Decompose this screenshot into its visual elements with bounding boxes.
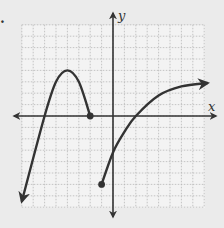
coordinate-plane: x y xyxy=(0,0,224,228)
graph-figure: . x y xyxy=(0,0,224,228)
y-axis-label: y xyxy=(117,8,126,23)
closed-dot-right-piece xyxy=(98,181,105,188)
x-axis-label: x xyxy=(208,99,216,114)
closed-dot-left-piece xyxy=(87,113,94,120)
